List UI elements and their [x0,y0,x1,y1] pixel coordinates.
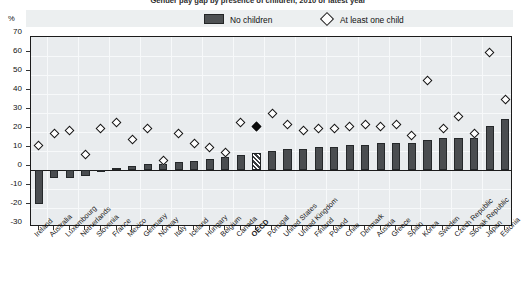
bar-no-children [190,161,198,171]
diamond-at-least-one-child [112,118,122,128]
gridline-vertical [171,37,172,225]
y-axis-tick-label: 50 [13,66,22,74]
legend-label-at-least-one-child: At least one child [340,15,404,25]
gridline-vertical [358,37,359,225]
bar-swatch-icon [204,14,224,24]
bar-no-children [392,143,400,170]
bar-no-children [175,162,183,170]
diamond-at-least-one-child [376,121,386,131]
bar-no-children [315,147,323,170]
bar-no-children [299,149,307,170]
y-axis-unit-label: % [8,14,15,23]
y-axis-tick-label: 0 [18,161,22,169]
gridline-horizontal [31,132,511,133]
x-axis-labels: IrelandAustraliaLuxembourgNetherlandsSlo… [0,231,516,284]
bar-no-children [346,145,354,170]
diamond-at-least-one-child [251,121,261,131]
diamond-at-least-one-child [49,129,59,139]
bar-no-children [252,153,260,170]
legend-item-at-least-one-child: At least one child [322,13,404,25]
bar-no-children [50,170,58,178]
gridline-vertical [295,37,296,225]
gridline-vertical [47,37,48,225]
gridline-vertical [389,37,390,225]
bar-no-children [501,119,509,170]
y-axis-tick-label: 30 [13,104,22,112]
bar-no-children [237,155,245,170]
diamond-at-least-one-child [345,121,355,131]
y-axis-tick-label: 10 [13,142,22,150]
y-axis-tick-label: -30 [10,218,22,226]
gridline-horizontal [31,94,511,95]
plot-area [30,36,512,226]
diamond-at-least-one-child [236,118,246,128]
gridline-horizontal [31,189,511,190]
legend-item-no-children: No children [204,13,272,25]
bar-no-children [454,138,462,170]
y-axis-tick-label: -10 [10,180,22,188]
bar-no-children [128,166,136,170]
gridline-vertical [140,37,141,225]
diamond-at-least-one-child [391,119,401,129]
bar-no-children [470,138,478,170]
gridline-vertical [78,37,79,225]
bar-no-children [112,168,120,170]
gridline-horizontal [31,56,511,57]
chart-title: Gender pay gap by presence of children, … [0,0,516,5]
bar-no-children [81,170,89,176]
diamond-at-least-one-child [298,125,308,135]
diamond-at-least-one-child [127,135,137,145]
gridline-vertical [233,37,234,225]
legend-label-no-children: No children [230,15,272,25]
bar-no-children [206,159,214,170]
gridline-vertical [326,37,327,225]
bar-no-children [439,138,447,170]
gridline-vertical [420,37,421,225]
gridline-vertical [202,37,203,225]
gridline-vertical [451,37,452,225]
chart-legend: No children At least one child [26,10,513,27]
diamond-at-least-one-child [500,95,510,105]
diamond-swatch-icon [320,12,334,26]
gridline-vertical [264,37,265,225]
gridline-horizontal [31,75,511,76]
gridline-vertical [109,37,110,225]
y-axis-tick-label: 60 [13,47,22,55]
gridline-vertical [482,37,483,225]
bar-no-children [35,170,43,204]
bar-no-children [361,145,369,170]
y-axis-tick-label: 20 [13,123,22,131]
bar-no-children [221,157,229,170]
bar-no-children [408,143,416,170]
diamond-at-least-one-child [34,140,44,150]
diamond-at-least-one-child [65,125,75,135]
diamond-at-least-one-child [189,138,199,148]
y-axis-tick-label: -20 [10,199,22,207]
bar-no-children [144,164,152,170]
y-axis-tick-label: 70 [13,28,22,36]
bar-no-children [423,140,431,170]
bar-no-children [330,147,338,170]
chart-title-text: Gender pay gap by presence of children, … [150,0,365,5]
diamond-at-least-one-child [423,76,433,86]
diamond-at-least-one-child [360,119,370,129]
bar-no-children [486,126,494,170]
diamond-at-least-one-child [283,119,293,129]
diamond-at-least-one-child [174,129,184,139]
diamond-at-least-one-child [267,108,277,118]
bar-no-children [268,151,276,170]
bar-no-children [283,149,291,170]
bar-no-children [66,170,74,178]
bar-no-children [377,143,385,170]
y-axis-tick-label: 40 [13,85,22,93]
y-axis: -30-20-10010203040506070 [0,32,26,230]
bar-no-children [97,170,105,172]
